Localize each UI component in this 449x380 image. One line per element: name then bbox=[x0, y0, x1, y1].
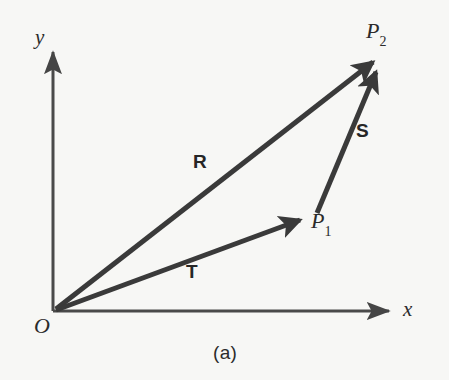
vector-label-s: S bbox=[356, 121, 369, 140]
point-label-p2: P2 bbox=[366, 20, 386, 46]
point-p2-base: P bbox=[366, 18, 379, 43]
point-p2-subscript: 2 bbox=[379, 34, 386, 49]
figure-caption: (a) bbox=[213, 342, 237, 364]
origin-label: O bbox=[34, 315, 50, 337]
point-p1-subscript: 1 bbox=[324, 224, 331, 239]
y-axis-label: y bbox=[35, 27, 44, 48]
vector-diagram-figure: y x O P2 P1 R S T (a) bbox=[0, 0, 449, 380]
point-p1-base: P bbox=[311, 208, 324, 233]
vector-label-r: R bbox=[193, 152, 207, 171]
vector-label-t: T bbox=[186, 262, 198, 281]
x-axis-label: x bbox=[403, 299, 412, 320]
point-label-p1: P1 bbox=[311, 210, 331, 236]
vector-r-line bbox=[56, 62, 373, 309]
vector-s-line bbox=[317, 72, 376, 213]
vector-t-line bbox=[56, 220, 300, 310]
vector-diagram-canvas bbox=[0, 0, 449, 380]
